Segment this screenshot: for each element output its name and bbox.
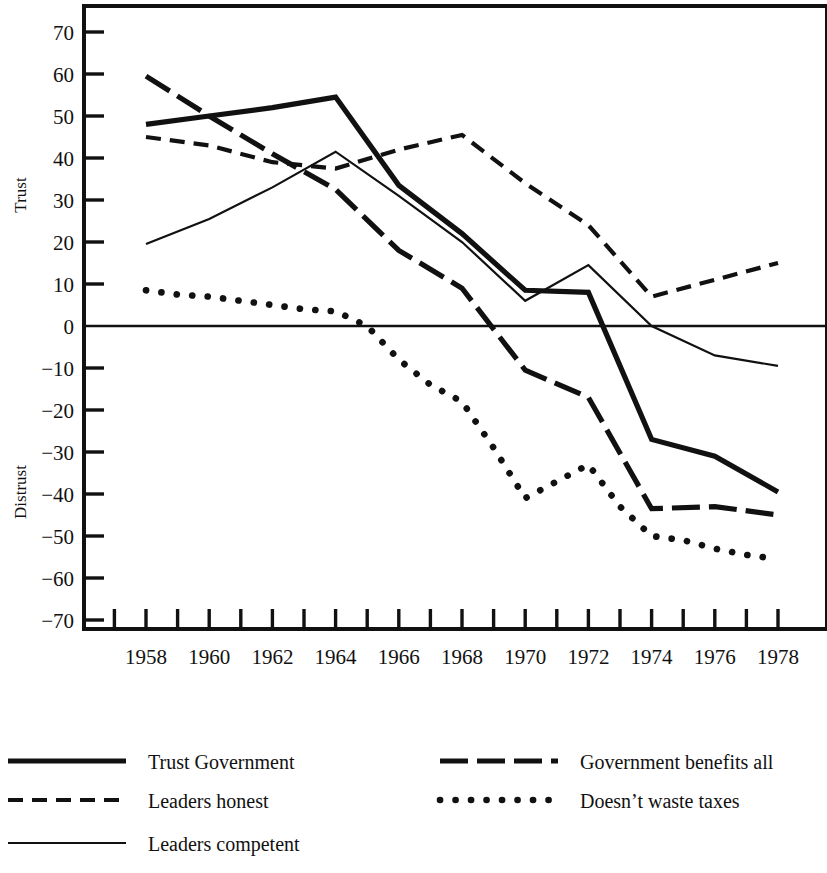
x-tick-label: 1960	[188, 645, 230, 669]
y-tick-label: −10	[41, 357, 74, 381]
data-series-layer	[146, 76, 778, 559]
series-line	[146, 97, 778, 492]
y-tick-label: 50	[53, 105, 74, 129]
x-tick-label: 1976	[694, 645, 736, 669]
y-tick-label: 20	[53, 231, 74, 255]
series-line	[146, 152, 778, 366]
legend-label: Leaders honest	[148, 790, 269, 812]
series-line	[146, 290, 778, 559]
legend-entry[interactable]: Trust Government	[8, 751, 295, 773]
x-tick-label: 1978	[757, 645, 799, 669]
y-tick-label: −20	[41, 399, 74, 423]
y-tick-label: −60	[41, 567, 74, 591]
y-tick-label: 70	[53, 21, 74, 45]
y-axis-label-trust: Trust	[11, 177, 30, 213]
x-tick-label: 1964	[315, 645, 358, 669]
x-tick-label: 1958	[125, 645, 167, 669]
y-tick-label: 30	[53, 189, 74, 213]
x-tick-label: 1974	[631, 645, 674, 669]
x-tick-label: 1962	[251, 645, 293, 669]
legend-entry[interactable]: Leaders honest	[8, 790, 269, 812]
plot-area-border	[84, 6, 827, 629]
x-tick-label: 1966	[378, 645, 420, 669]
y-tick-label: −70	[41, 609, 74, 633]
legend-entry[interactable]: Government benefits all	[440, 751, 774, 773]
chart-legend: Trust GovernmentLeaders honestLeaders co…	[8, 751, 774, 856]
plot-frame	[84, 6, 827, 629]
y-tick-label: −40	[41, 483, 74, 507]
x-tick-label: 1972	[567, 645, 609, 669]
y-tick-label: 40	[53, 147, 74, 171]
legend-label: Leaders competent	[148, 833, 300, 856]
y-tick-label: −50	[41, 525, 74, 549]
legend-label: Trust Government	[148, 751, 295, 773]
y-tick-label: 60	[53, 63, 74, 87]
x-tick-label: 1970	[504, 645, 546, 669]
trust-in-government-line-chart: 706050403020100−10−20−30−40−50−60−70 195…	[0, 0, 827, 873]
y-tick-label: 0	[64, 315, 75, 339]
legend-label: Government benefits all	[580, 751, 774, 773]
series-line	[146, 135, 778, 297]
legend-entry[interactable]: Doesn’t waste taxes	[440, 790, 740, 812]
y-tick-label: −30	[41, 441, 74, 465]
legend-entry[interactable]: Leaders competent	[8, 833, 300, 856]
x-axis-ticks: 1958196019621964196619681970197219741976…	[114, 609, 799, 669]
y-tick-label: 10	[53, 273, 74, 297]
chart-figure: 706050403020100−10−20−30−40−50−60−70 195…	[0, 0, 827, 873]
x-tick-label: 1968	[441, 645, 483, 669]
y-axis-label-distrust: Distrust	[11, 465, 30, 519]
legend-label: Doesn’t waste taxes	[580, 790, 740, 812]
